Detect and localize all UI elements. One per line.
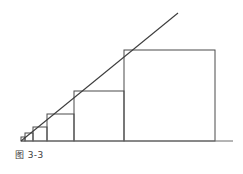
nested-squares-diagram [0, 0, 243, 174]
square-6 [124, 50, 215, 141]
square-5 [74, 91, 124, 141]
diagonal-ray [21, 13, 178, 141]
figure-caption: 图 3-3 [15, 149, 44, 161]
figure-container: 图 3-3 [0, 0, 243, 174]
square-4 [47, 114, 74, 141]
squares-group [21, 50, 215, 141]
